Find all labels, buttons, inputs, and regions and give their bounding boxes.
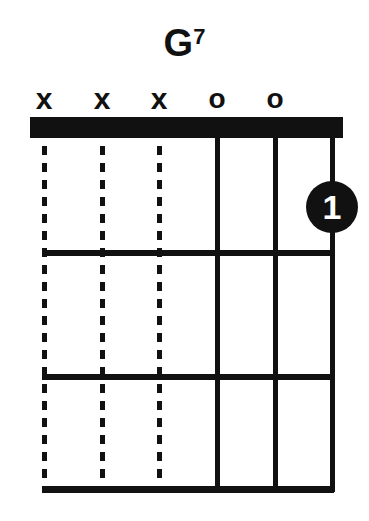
string-5 [273, 138, 278, 492]
fret-line-1 [42, 250, 334, 256]
fret-line-2 [42, 374, 334, 380]
string-2-muted [100, 138, 105, 492]
string-4-open-marker: o [202, 84, 232, 114]
string-1-muted [42, 138, 47, 492]
string-5-open-marker: o [260, 84, 290, 114]
nut [30, 117, 343, 138]
string-1-muted-marker: x [29, 84, 59, 114]
string-2-muted-marker: x [87, 84, 117, 114]
chord-extension: 7 [193, 24, 205, 49]
string-4 [215, 138, 220, 492]
string-3-muted [157, 138, 162, 492]
chord-root: G [164, 22, 194, 64]
fret-line-3 [42, 486, 334, 493]
finger-dot: 1 [306, 181, 358, 233]
chord-title: G7 [0, 22, 369, 65]
string-3-muted-marker: x [144, 84, 174, 114]
